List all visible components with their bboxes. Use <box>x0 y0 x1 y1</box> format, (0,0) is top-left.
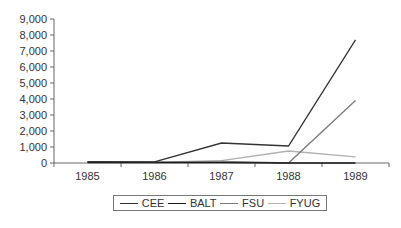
legend-label: BALT <box>190 197 217 209</box>
legend-line-icon <box>268 203 286 204</box>
y-tick-label: 7,000 <box>19 45 47 57</box>
x-tick-label: 1988 <box>276 170 300 182</box>
legend-label: FSU <box>242 197 264 209</box>
y-tick-label: 0 <box>41 157 47 169</box>
legend: CEE BALT FSU FYUG <box>113 195 327 211</box>
legend-item-balt: BALT <box>168 197 217 209</box>
y-tick-label: 8,000 <box>19 29 47 41</box>
y-tick-label: 3,000 <box>19 109 47 121</box>
legend-line-icon <box>120 203 138 204</box>
x-tick-label: 1989 <box>343 170 367 182</box>
series-line-balt <box>88 163 356 164</box>
series-layer <box>88 40 356 163</box>
series-line-fyug <box>88 151 356 162</box>
y-tick-label: 1,000 <box>19 141 47 153</box>
legend-label: CEE <box>142 197 165 209</box>
line-chart: 01,0002,0003,0004,0005,0006,0007,0008,00… <box>0 0 401 228</box>
legend-item-cee: CEE <box>120 197 165 209</box>
x-tick-label: 1985 <box>75 170 99 182</box>
x-tick-label: 1987 <box>209 170 233 182</box>
y-tick-label: 4,000 <box>19 93 47 105</box>
y-axis: 01,0002,0003,0004,0005,0006,0007,0008,00… <box>19 13 54 169</box>
legend-label: FYUG <box>290 197 321 209</box>
legend-item-fyug: FYUG <box>268 197 321 209</box>
legend-item-fsu: FSU <box>220 197 264 209</box>
y-tick-label: 5,000 <box>19 77 47 89</box>
y-tick-label: 2,000 <box>19 125 47 137</box>
x-axis: 19851986198719881989 <box>54 163 389 182</box>
legend-line-icon <box>220 203 238 204</box>
series-line-cee <box>88 40 356 162</box>
y-tick-label: 9,000 <box>19 13 47 25</box>
legend-line-icon <box>168 203 186 204</box>
x-tick-label: 1986 <box>142 170 166 182</box>
y-tick-label: 6,000 <box>19 61 47 73</box>
